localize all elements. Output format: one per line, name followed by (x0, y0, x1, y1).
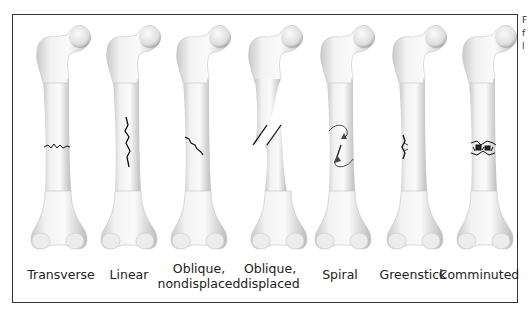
femur-spiral (307, 21, 379, 253)
cut-off-char: f (522, 27, 530, 40)
bone-illustration (163, 21, 235, 253)
femur-oblique-nondisplaced (163, 21, 235, 253)
label-linear: Linear (110, 267, 149, 282)
femur-transverse (23, 21, 95, 253)
label-line: Greenstick (380, 267, 447, 282)
label-line: Oblique, (240, 261, 300, 276)
fracture-labels: Transverse Linear Oblique, nondisplaced … (13, 255, 519, 305)
label-oblique-nondisplaced: Oblique, nondisplaced (158, 261, 241, 291)
label-line: nondisplaced (158, 276, 241, 291)
bone-illustration (379, 21, 451, 253)
label-line: Comminuted (439, 267, 520, 282)
label-oblique-displaced: Oblique, displaced (240, 261, 300, 291)
cut-off-side-text: F f l (522, 14, 530, 53)
bone-illustration (93, 21, 165, 253)
cut-off-char: F (522, 14, 530, 27)
femur-linear (93, 21, 165, 253)
figure-frame: Transverse Linear Oblique, nondisplaced … (12, 14, 518, 303)
label-spiral: Spiral (322, 267, 358, 282)
bone-illustration (23, 21, 95, 253)
femur-greenstick (379, 21, 451, 253)
label-transverse: Transverse (27, 267, 94, 282)
cut-off-char: l (522, 40, 530, 53)
label-greenstick: Greenstick (380, 267, 447, 282)
bone-illustration (307, 21, 379, 253)
label-line: Transverse (27, 267, 94, 282)
label-line: displaced (240, 276, 300, 291)
label-line: Linear (110, 267, 149, 282)
label-line: Oblique, (158, 261, 241, 276)
label-comminuted: Comminuted (439, 267, 520, 282)
label-line: Spiral (322, 267, 358, 282)
bone-illustration (449, 21, 521, 253)
femur-comminuted (449, 21, 521, 253)
bone-illustration (235, 21, 307, 253)
femur-oblique-displaced (235, 21, 307, 253)
